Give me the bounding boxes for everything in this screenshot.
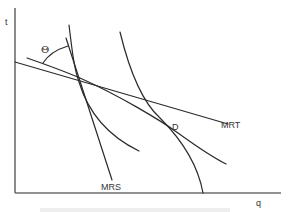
- point-d-label: D: [172, 122, 179, 132]
- theta-label: Θ: [41, 44, 49, 55]
- mrs-line: [66, 38, 112, 180]
- mrt-line: [15, 62, 228, 124]
- mrs-label: MRS: [101, 182, 121, 192]
- mrt-label: MRT: [221, 120, 241, 130]
- y-axis-label: t: [5, 17, 8, 27]
- economics-diagram: t q Θ MRT MRS D: [0, 0, 289, 212]
- caption-cutoff: [40, 208, 230, 212]
- x-axis-label: q: [256, 198, 261, 208]
